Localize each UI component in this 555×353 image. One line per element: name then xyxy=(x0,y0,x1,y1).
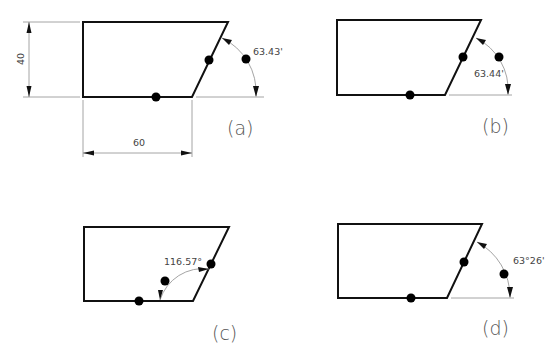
angle-marker xyxy=(242,55,251,64)
angle-marker xyxy=(500,270,509,279)
width-dimension-label: 60 xyxy=(133,137,145,148)
arrow-down-icon xyxy=(27,86,32,97)
panel-c: 116.57° (c) xyxy=(84,227,237,344)
arc-arrow-start-icon xyxy=(222,38,232,45)
panel-b: 63.44' (b) xyxy=(337,20,512,137)
arc-arrow-end-icon xyxy=(253,86,259,97)
edge-marker-slanted xyxy=(459,53,468,62)
edge-marker-bottom xyxy=(135,297,144,306)
arc-arrow-start-icon xyxy=(476,38,486,45)
arrow-left-icon xyxy=(83,151,94,156)
angle-label: 116.57° xyxy=(164,256,202,267)
angle-marker xyxy=(161,277,170,286)
angle-arc xyxy=(477,242,510,297)
panel-label-c: (c) xyxy=(212,322,237,344)
angle-marker xyxy=(495,53,504,62)
panel-a: 40 60 63.43' (a) xyxy=(15,22,283,157)
panel-label-b: (b) xyxy=(482,115,509,137)
edge-marker-slanted xyxy=(205,56,214,65)
panel-d: 63°26' (d) xyxy=(338,224,545,339)
angle-arc xyxy=(476,38,508,94)
edge-marker-slanted xyxy=(460,258,469,267)
panel-label-a: (a) xyxy=(227,117,253,139)
angle-arc xyxy=(222,38,256,96)
height-dimension-label: 40 xyxy=(15,53,26,65)
arc-arrow-end-icon xyxy=(505,84,511,95)
arrow-right-icon xyxy=(181,151,192,156)
panel-label-d: (d) xyxy=(482,317,509,339)
edge-marker-bottom xyxy=(152,93,161,102)
trapezoid-angle-diagram: 40 60 63.43' (a) 63.44' (b) xyxy=(0,0,555,353)
arrow-up-icon xyxy=(27,22,32,33)
edge-marker-bottom xyxy=(406,91,415,100)
angle-label: 63°26' xyxy=(513,255,545,266)
angle-label: 63.44' xyxy=(474,68,504,79)
edge-marker-slanted xyxy=(207,260,216,269)
angle-label: 63.43' xyxy=(253,46,283,57)
arc-arrow-end-icon xyxy=(507,287,513,298)
edge-marker-bottom xyxy=(407,294,416,303)
